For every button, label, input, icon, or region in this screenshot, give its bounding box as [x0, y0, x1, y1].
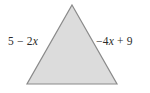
- right-side-tail: + 9: [114, 35, 133, 47]
- left-side-variable: x: [33, 35, 38, 47]
- geometry-figure: 5 − 2x −4x + 9: [0, 0, 150, 93]
- right-side-label: −4x + 9: [96, 36, 133, 48]
- left-side-expression-prefix: 5 − 2: [8, 35, 33, 47]
- right-side-coefficient: −4: [96, 35, 109, 47]
- left-side-label: 5 − 2x: [8, 36, 38, 48]
